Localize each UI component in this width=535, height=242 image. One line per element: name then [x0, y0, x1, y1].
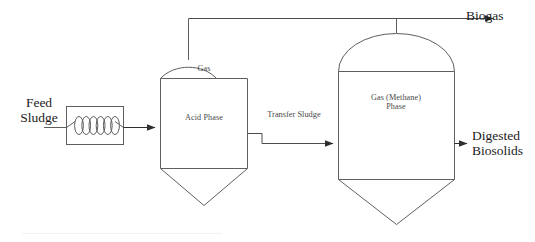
- footer-rule: [22, 233, 222, 234]
- methane-phase-shell: [339, 72, 455, 180]
- label-methane-phase-body: Gas (Methane) Phase: [348, 93, 444, 112]
- label-acid-phase-body: Acid Phase: [168, 113, 240, 122]
- label-acid-phase-headspace: Gas: [172, 64, 236, 73]
- diagram-canvas: [0, 0, 535, 242]
- methane-phase-cone: [339, 180, 455, 225]
- label-feed-sludge: Feed Sludge: [8, 95, 70, 126]
- acid-phase-shell: [161, 79, 248, 169]
- heat-exchanger-coil: [75, 117, 120, 135]
- acid-phase-cone: [161, 169, 248, 206]
- label-transfer-sludge: Transfer Sludge: [252, 110, 336, 120]
- label-biogas: Biogas: [466, 8, 532, 23]
- process-flow-diagram: Feed Sludge Biogas Digested Biosolids Ga…: [0, 0, 535, 242]
- label-digested-biosolids: Digested Biosolids: [472, 128, 534, 159]
- transfer-sludge-line: [248, 134, 334, 144]
- methane-phase-dome: [339, 34, 455, 72]
